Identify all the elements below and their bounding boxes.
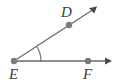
ray-ed-group [14,6,97,61]
point-e-dot [11,58,17,64]
ray-ef-group [14,58,112,65]
geometry-diagram: E D F [0,0,118,83]
angle-arc-def [37,46,41,61]
point-label-f: F [82,66,93,82]
point-label-d: D [60,4,72,20]
geometry-canvas: E D F [0,0,118,83]
ray-ed-line [14,10,92,61]
point-d-dot [66,22,72,28]
point-f-dot [85,58,91,64]
point-label-e: E [8,66,18,82]
ray-ef-arrowhead [105,58,112,65]
ray-ed-arrowhead [89,6,97,13]
